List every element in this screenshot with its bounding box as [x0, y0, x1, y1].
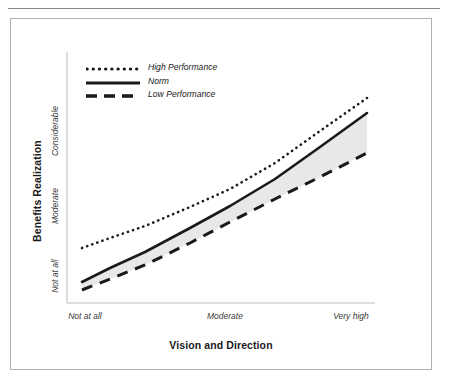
legend-swatch-dashed-icon [86, 94, 140, 98]
x-axis-title: Vision and Direction [67, 339, 375, 351]
legend-label-high-performance: High Performance [148, 62, 217, 72]
legend-item-low-performance: Low Performance [86, 89, 276, 103]
x-axis-tick-label-very-high: Very high [306, 311, 396, 321]
legend-swatch-solid-icon [86, 81, 140, 85]
chart-legend: High Performance Norm Low Performance [86, 62, 276, 103]
series-line-norm [82, 113, 367, 282]
y-axis-title: Benefits Realization [31, 121, 43, 261]
legend-label-low-performance: Low Performance [148, 89, 215, 99]
legend-item-norm: Norm [86, 76, 276, 90]
chart-container: High Performance Norm Low Performance Co… [0, 0, 449, 379]
legend-swatch-dotted-icon [86, 67, 140, 71]
legend-item-high-performance: High Performance [86, 62, 276, 76]
x-axis-tick-label-not-at-all: Not at all [40, 311, 130, 321]
shaded-band-region [82, 113, 367, 290]
y-axis-tick-label-moderate: Moderate [50, 166, 60, 246]
chart-plot-svg [0, 0, 449, 379]
x-axis-tick-label-moderate: Moderate [180, 311, 270, 321]
legend-label-norm: Norm [148, 76, 169, 86]
y-axis-tick-label-considerable: Considerable [50, 91, 60, 171]
y-axis-tick-label-not-at-all: Not at all [50, 236, 60, 316]
